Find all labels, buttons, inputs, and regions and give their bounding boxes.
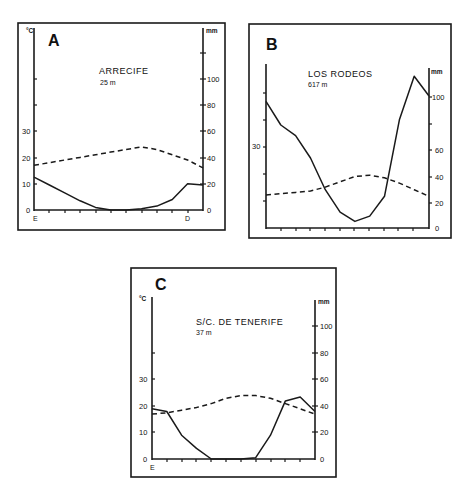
svg-text:30: 30 xyxy=(22,127,30,136)
svg-text:20: 20 xyxy=(22,154,30,163)
svg-text:20: 20 xyxy=(139,402,147,411)
svg-text:10: 10 xyxy=(139,428,147,437)
svg-text:100: 100 xyxy=(320,322,333,331)
panel-c-altitude: 37 m xyxy=(196,329,212,336)
svg-text:100: 100 xyxy=(432,93,445,102)
climate-diagrams-figure: A °C mm ARRECIFE 25 m 0 10 20 30 0 xyxy=(0,0,462,489)
panel-b-right-unit: mm xyxy=(431,68,443,75)
panel-c-right-unit: mm xyxy=(318,298,330,305)
panel-c-right-tick-labels: 0 20 40 60 80 100 xyxy=(320,322,333,464)
panel-a-right-tick-labels: 0 20 40 60 80 100 xyxy=(207,75,220,215)
panel-c-precipitation-line xyxy=(152,397,315,459)
svg-text:80: 80 xyxy=(207,101,215,110)
panel-a-ticks xyxy=(34,53,206,213)
panel-c-left-tick-labels: 0 10 20 30 xyxy=(139,375,147,464)
panel-a: A °C mm ARRECIFE 25 m 0 10 20 30 0 xyxy=(18,23,225,230)
panel-c-letter: C xyxy=(155,276,167,293)
svg-text:30: 30 xyxy=(139,375,147,384)
panel-a-precipitation-line xyxy=(34,177,203,210)
panel-a-left-tick-labels: 0 10 20 30 xyxy=(22,127,30,215)
svg-text:40: 40 xyxy=(207,154,215,163)
panel-a-letter: A xyxy=(48,32,60,49)
svg-text:20: 20 xyxy=(435,199,443,208)
panel-b-ticks xyxy=(263,93,432,231)
panel-b-temperature-line xyxy=(266,175,429,196)
panel-b-left-tick-label: 30 xyxy=(252,142,260,151)
panel-a-temperature-line xyxy=(34,147,203,168)
svg-text:0: 0 xyxy=(207,206,211,215)
svg-text:60: 60 xyxy=(207,127,215,136)
svg-text:0: 0 xyxy=(435,224,439,233)
panel-b-altitude: 617 m xyxy=(308,81,328,88)
svg-text:0: 0 xyxy=(143,455,147,464)
svg-text:40: 40 xyxy=(435,173,443,182)
panel-a-right-unit: mm xyxy=(206,27,218,34)
panel-b-station-name: LOS RODEOS xyxy=(308,69,373,79)
panel-a-left-unit: °C xyxy=(26,27,34,34)
panel-c-x-start-label: E xyxy=(150,464,155,471)
panel-c-left-unit: °C xyxy=(139,295,147,302)
svg-text:20: 20 xyxy=(207,180,215,189)
panel-c-frame xyxy=(131,268,336,477)
panel-b: B mm LOS RODEOS 617 m 30 0 20 40 60 100 xyxy=(249,24,451,238)
panel-b-letter: B xyxy=(266,36,278,53)
svg-text:40: 40 xyxy=(320,402,328,411)
svg-text:10: 10 xyxy=(22,180,30,189)
svg-text:0: 0 xyxy=(26,206,30,215)
panel-b-right-tick-labels: 0 20 40 60 100 xyxy=(432,93,445,233)
panel-c-station-name: S/C. DE TENERIFE xyxy=(196,317,283,327)
svg-text:60: 60 xyxy=(435,146,443,155)
panel-c-ticks xyxy=(152,326,318,462)
svg-text:60: 60 xyxy=(320,375,328,384)
panel-a-station-name: ARRECIFE xyxy=(99,66,149,76)
panel-a-x-start-label: E xyxy=(33,215,38,222)
svg-text:80: 80 xyxy=(320,349,328,358)
panel-a-x-end-label: D xyxy=(185,215,190,222)
panel-c: C °C mm S/C. DE TENERIFE 37 m 0 10 20 30… xyxy=(131,268,336,477)
svg-text:20: 20 xyxy=(320,428,328,437)
panel-b-precipitation-line xyxy=(266,76,429,221)
svg-text:100: 100 xyxy=(207,75,220,84)
panel-a-frame xyxy=(18,23,225,230)
panel-a-altitude: 25 m xyxy=(100,79,116,86)
svg-text:0: 0 xyxy=(320,455,324,464)
panel-b-frame xyxy=(249,24,451,238)
panel-c-temperature-line xyxy=(152,396,315,415)
